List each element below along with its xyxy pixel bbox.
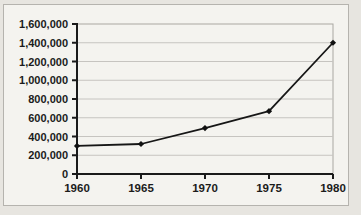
y-tick-label: 1,600,000	[19, 18, 68, 30]
data-point-marker	[74, 143, 80, 149]
y-tick-label: 600,000	[28, 112, 68, 124]
y-tick-label: 1,400,000	[19, 37, 68, 49]
x-tick-label: 1960	[64, 182, 90, 194]
x-tick-label: 1980	[320, 182, 346, 194]
scanned-page-background: 0200,000400,000600,000800,0001,000,0001,…	[0, 0, 361, 215]
population-line-chart: 0200,000400,000600,000800,0001,000,0001,…	[0, 0, 361, 215]
y-tick-label: 0	[62, 168, 68, 180]
x-tick-label: 1975	[256, 182, 282, 194]
y-tick-label: 200,000	[28, 149, 68, 161]
data-point-marker	[202, 125, 208, 131]
x-tick-label: 1965	[128, 182, 154, 194]
y-tick-label: 800,000	[28, 93, 68, 105]
data-point-marker	[138, 141, 144, 147]
y-tick-label: 400,000	[28, 131, 68, 143]
y-tick-label: 1,200,000	[19, 56, 68, 68]
x-tick-label: 1970	[192, 182, 218, 194]
y-tick-label: 1,000,000	[19, 74, 68, 86]
